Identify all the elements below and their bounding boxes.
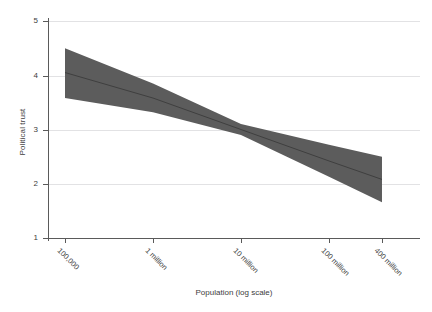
x-tick-mark-1-million xyxy=(153,238,154,243)
x-tick-label-400-million: 400 million xyxy=(373,246,405,278)
x-tick-label-100-thousand: 100,000 xyxy=(56,246,82,272)
x-axis-line xyxy=(48,238,420,239)
x-tick-label-100-million: 100 million xyxy=(320,246,352,278)
x-tick-mark-10-million xyxy=(241,238,242,243)
y-tick-label-3: 3 xyxy=(18,126,38,134)
gridline-y-5 xyxy=(49,21,420,22)
x-tick-mark-100-million xyxy=(329,238,330,243)
x-tick-mark-400-million xyxy=(382,238,383,243)
x-tick-mark-100-thousand xyxy=(65,238,66,243)
y-tick-mark-1 xyxy=(43,238,48,239)
confidence-interval-band xyxy=(65,48,382,202)
chart-plot-svg xyxy=(0,0,432,312)
gridline-y-3 xyxy=(49,130,420,131)
x-tick-label-1-million: 1 million xyxy=(144,246,170,272)
y-tick-mark-2 xyxy=(43,184,48,185)
y-tick-label-5: 5 xyxy=(18,17,38,25)
x-tick-label-10-million: 10 million xyxy=(232,246,261,275)
y-tick-label-1: 1 xyxy=(18,234,38,242)
chart-container: Political trust 5 4 3 2 1 100,000 1 mill… xyxy=(0,0,432,312)
regression-fit-line xyxy=(65,73,382,180)
y-tick-mark-5 xyxy=(43,21,48,22)
y-tick-mark-3 xyxy=(43,130,48,131)
x-axis-title: Population (log scale) xyxy=(48,288,420,297)
gridline-y-4 xyxy=(49,76,420,77)
y-tick-label-2: 2 xyxy=(18,180,38,188)
y-axis-line xyxy=(48,18,49,241)
y-tick-mark-4 xyxy=(43,76,48,77)
gridline-y-2 xyxy=(49,184,420,185)
y-tick-label-4: 4 xyxy=(18,72,38,80)
